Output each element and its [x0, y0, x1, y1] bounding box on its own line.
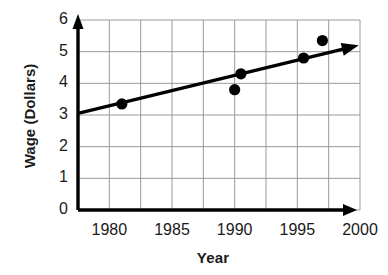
y-axis-arrowhead: [73, 14, 84, 29]
y-tick-label: 2: [42, 137, 68, 155]
y-axis-title: Wage (Dollars): [21, 64, 38, 168]
y-tick-label: 6: [42, 10, 68, 28]
y-tick-label: 5: [42, 42, 68, 60]
data-point: [317, 35, 328, 46]
horizontal-gridlines: [78, 20, 360, 210]
x-tick-label: 1990: [205, 221, 265, 239]
wage-vs-year-scatter-chart: 0123456 19801985199019952000 Wage (Dolla…: [0, 0, 388, 275]
y-axis-title-wrapper: Wage (Dollars): [19, 26, 39, 206]
x-tick-label: 1980: [79, 221, 139, 239]
x-axis-arrowhead: [343, 204, 357, 216]
x-axis-title: Year: [0, 249, 388, 266]
data-point: [116, 98, 127, 109]
y-tick-label: 0: [42, 200, 68, 218]
y-tick-label: 1: [42, 168, 68, 186]
y-tick-label: 3: [42, 105, 68, 123]
y-tick-label: 4: [42, 73, 68, 91]
data-point-markers: [116, 35, 328, 110]
x-tick-label: 1995: [267, 221, 327, 239]
data-point: [298, 52, 309, 63]
data-point: [235, 68, 246, 79]
x-tick-label: 2000: [330, 221, 388, 239]
trend-line-arrowhead: [341, 43, 359, 56]
data-point: [229, 84, 240, 95]
x-tick-label: 1985: [142, 221, 202, 239]
